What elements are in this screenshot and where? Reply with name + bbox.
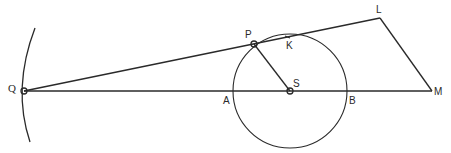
label-K: K bbox=[286, 40, 293, 51]
line-LM bbox=[380, 18, 432, 91]
label-L: L bbox=[376, 4, 382, 15]
label-M: M bbox=[434, 86, 442, 97]
label-A: A bbox=[223, 95, 230, 106]
line-PS bbox=[254, 44, 290, 91]
line-QL bbox=[24, 18, 380, 91]
left-arc bbox=[22, 28, 35, 142]
label-B: B bbox=[349, 95, 356, 106]
label-P: P bbox=[245, 29, 252, 40]
geometry-diagram: Q P K S A B L M bbox=[0, 0, 451, 153]
label-Q: Q bbox=[8, 82, 16, 94]
label-S: S bbox=[293, 78, 300, 89]
